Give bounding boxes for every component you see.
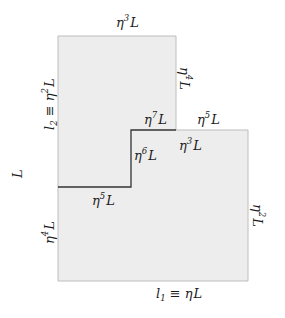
- label-bottom-edge-l1: l1 ≡ ηL: [156, 286, 202, 303]
- label-step-top-right: η5L: [197, 110, 220, 127]
- label-top-edge: η3L: [116, 13, 139, 30]
- label-upper-right-edge: η4L: [177, 67, 194, 90]
- label-right-lower: η2L: [250, 204, 267, 227]
- region-diagram: η3L η4L l2 ≡ η2L L η7L η5L η3L η6L η5L η…: [0, 0, 285, 318]
- label-left-total: L: [10, 169, 25, 179]
- label-left-lower: η4L: [40, 221, 57, 244]
- label-left-upper-l2: l2 ≡ η2L: [40, 78, 59, 130]
